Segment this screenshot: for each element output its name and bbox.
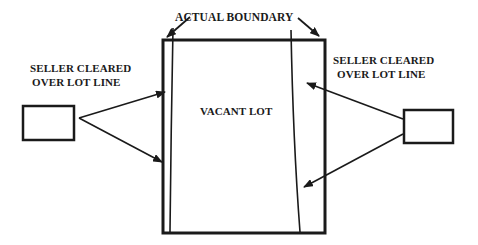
right-annotation-line1: SELLER CLEARED (333, 53, 434, 67)
boundary-diagram: ACTUAL BOUNDARY SELLER CLEARED OVER LOT … (0, 0, 478, 245)
actual-boundary-right-line (291, 30, 300, 232)
actual-boundary-left-line (170, 28, 173, 232)
arrow-boundary-right (298, 18, 319, 36)
right-annotation: SELLER CLEARED OVER LOT LINE (333, 53, 434, 81)
arrow-left-upper (79, 92, 165, 118)
left-annotation: SELLER CLEARED OVER LOT LINE (30, 61, 131, 89)
left-annotation-line1: SELLER CLEARED (30, 61, 131, 75)
actual-boundary-label: ACTUAL BOUNDARY (175, 10, 293, 24)
vacant-lot-label: VACANT LOT (200, 104, 272, 118)
diagram-canvas (0, 0, 478, 245)
right-cleared-box (404, 110, 453, 143)
left-annotation-line2: OVER LOT LINE (30, 75, 131, 89)
left-cleared-box (23, 106, 74, 140)
arrow-left-lower (79, 118, 162, 162)
lot-rectangle (163, 40, 325, 233)
right-annotation-line2: OVER LOT LINE (333, 67, 434, 81)
arrow-right-lower (304, 134, 403, 187)
arrow-right-upper (307, 83, 403, 119)
